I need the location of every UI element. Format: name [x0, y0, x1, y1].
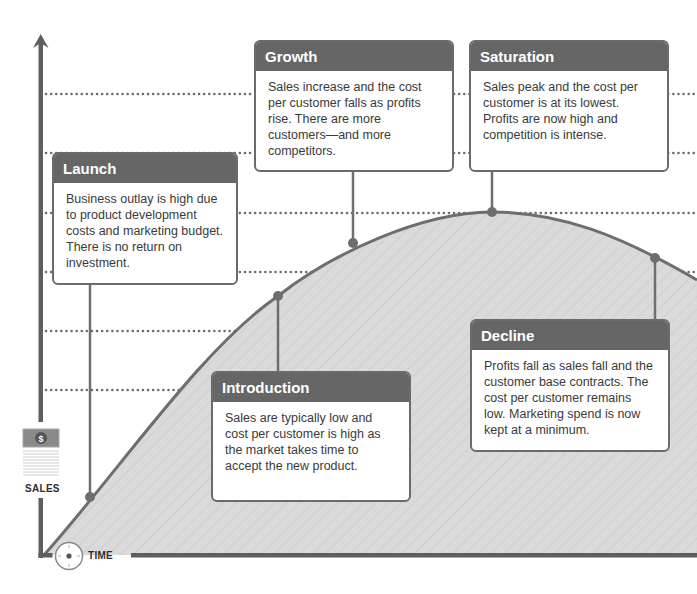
- x-axis-label: TIME: [88, 550, 113, 561]
- stage-card-decline: Decline Profits fall as sales fall and t…: [470, 319, 670, 452]
- y-axis: [33, 34, 49, 558]
- stage-card-growth: Growth Sales increase and the cost per c…: [254, 40, 454, 172]
- stage-description: Business outlay is high due to product d…: [54, 183, 236, 279]
- stage-title: Growth: [256, 42, 452, 71]
- svg-text:$: $: [38, 434, 43, 444]
- stage-title: Decline: [472, 321, 668, 350]
- stage-card-introduction: Introduction Sales are typically low and…: [211, 371, 411, 502]
- clock-icon: [56, 543, 83, 570]
- x-axis: [39, 553, 697, 558]
- stage-card-launch: Launch Business outlay is high due to pr…: [52, 152, 238, 285]
- y-axis-label: SALES: [25, 483, 60, 494]
- stage-description: Sales increase and the cost per customer…: [256, 71, 452, 167]
- stage-description: Sales are typically low and cost per cus…: [213, 402, 409, 482]
- dollar-bill-icon: $: [23, 429, 59, 475]
- stage-title: Saturation: [471, 42, 667, 71]
- stage-title: Launch: [54, 154, 236, 183]
- stage-description: Sales peak and the cost per customer is …: [471, 71, 667, 151]
- stage-description: Profits fall as sales fall and the custo…: [472, 350, 668, 446]
- product-life-cycle-diagram: $ SALES TIME Launch Business outlay is h…: [0, 0, 697, 594]
- stage-title: Introduction: [213, 373, 409, 402]
- stage-card-saturation: Saturation Sales peak and the cost per c…: [469, 40, 669, 172]
